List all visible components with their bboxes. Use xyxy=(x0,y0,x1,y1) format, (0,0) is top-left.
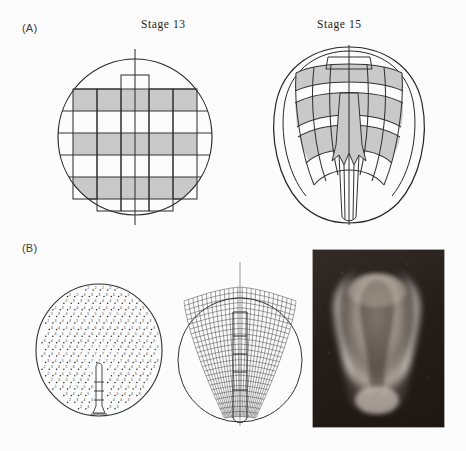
svg-text:4: 4 xyxy=(135,319,137,323)
svg-text:5: 5 xyxy=(117,392,119,396)
svg-text:3: 3 xyxy=(84,293,86,297)
svg-text:7: 7 xyxy=(91,345,93,349)
svg-text:4: 4 xyxy=(120,306,122,310)
svg-text:6: 6 xyxy=(120,332,122,336)
svg-text:2: 2 xyxy=(69,293,71,297)
svg-text:5: 5 xyxy=(84,319,86,323)
svg-text:5: 5 xyxy=(73,378,75,382)
svg-text:4: 4 xyxy=(142,332,144,336)
svg-text:5: 5 xyxy=(62,372,64,376)
svg-text:7: 7 xyxy=(98,359,100,363)
svg-text:4: 4 xyxy=(54,359,56,363)
svg-text:7: 7 xyxy=(117,365,119,369)
svg-text:3: 3 xyxy=(87,405,89,409)
svg-text:4: 4 xyxy=(113,398,115,402)
svg-text:6: 6 xyxy=(80,365,82,369)
svg-text:7: 7 xyxy=(91,372,93,376)
svg-text:6: 6 xyxy=(117,339,119,343)
svg-text:4: 4 xyxy=(102,299,104,303)
svg-text:6: 6 xyxy=(127,359,129,363)
svg-text:3: 3 xyxy=(109,405,111,409)
svg-text:2: 2 xyxy=(138,299,140,303)
svg-text:5: 5 xyxy=(127,385,129,389)
svg-text:5: 5 xyxy=(73,326,75,330)
svg-text:5: 5 xyxy=(98,319,100,323)
stage-15-title: Stage 15 xyxy=(317,18,362,30)
svg-text:5: 5 xyxy=(127,332,129,336)
svg-text:6: 6 xyxy=(131,365,133,369)
svg-text:7: 7 xyxy=(109,352,111,356)
svg-text:6: 6 xyxy=(98,332,100,336)
svg-text:3: 3 xyxy=(142,385,144,389)
svg-text:5: 5 xyxy=(131,378,133,382)
svg-text:5: 5 xyxy=(113,319,115,323)
svg-text:7: 7 xyxy=(113,345,115,349)
svg-text:6: 6 xyxy=(131,352,133,356)
svg-text:6: 6 xyxy=(73,339,75,343)
svg-text:4: 4 xyxy=(131,312,133,316)
svg-text:3: 3 xyxy=(47,359,49,363)
svg-text:7: 7 xyxy=(80,352,82,356)
svg-text:2: 2 xyxy=(157,332,159,336)
svg-text:7: 7 xyxy=(117,352,119,356)
svg-text:4: 4 xyxy=(138,326,140,330)
svg-text:7: 7 xyxy=(95,352,97,356)
svg-text:4: 4 xyxy=(80,312,82,316)
svg-text:4: 4 xyxy=(91,306,93,310)
svg-text:4: 4 xyxy=(69,319,71,323)
svg-text:4: 4 xyxy=(135,385,137,389)
svg-text:2: 2 xyxy=(54,306,56,310)
svg-text:6: 6 xyxy=(127,372,129,376)
svg-text:5: 5 xyxy=(62,345,64,349)
svg-text:6: 6 xyxy=(80,378,82,382)
svg-text:3: 3 xyxy=(62,306,64,310)
svg-text:4: 4 xyxy=(120,398,122,402)
svg-text:6: 6 xyxy=(109,326,111,330)
svg-text:3: 3 xyxy=(153,352,155,356)
svg-text:7: 7 xyxy=(84,359,86,363)
svg-text:5: 5 xyxy=(135,359,137,363)
svg-text:7: 7 xyxy=(113,359,115,363)
svg-text:4: 4 xyxy=(98,306,100,310)
svg-text:4: 4 xyxy=(138,378,140,382)
svg-text:4: 4 xyxy=(113,306,115,310)
svg-text:6: 6 xyxy=(117,326,119,330)
svg-text:6: 6 xyxy=(131,339,133,343)
svg-text:3: 3 xyxy=(142,319,144,323)
svg-text:6: 6 xyxy=(102,326,104,330)
svg-text:5: 5 xyxy=(138,365,140,369)
svg-text:5: 5 xyxy=(138,352,140,356)
figure-root: (A) Stage 13 Stage 15 xyxy=(0,0,466,451)
svg-text:4: 4 xyxy=(73,392,75,396)
svg-text:5: 5 xyxy=(91,319,93,323)
svg-text:2: 2 xyxy=(117,286,119,290)
svg-text:6: 6 xyxy=(76,359,78,363)
svg-text:7: 7 xyxy=(113,372,115,376)
svg-text:5: 5 xyxy=(109,312,111,316)
svg-text:5: 5 xyxy=(131,326,133,330)
svg-text:3: 3 xyxy=(76,398,78,402)
svg-text:3: 3 xyxy=(47,345,49,349)
svg-text:3: 3 xyxy=(131,299,133,303)
svg-text:5: 5 xyxy=(120,319,122,323)
svg-text:7: 7 xyxy=(84,345,86,349)
numbered-map-outline xyxy=(36,284,162,416)
svg-text:5: 5 xyxy=(58,352,60,356)
svg-text:3: 3 xyxy=(98,293,100,297)
svg-text:6: 6 xyxy=(87,339,89,343)
svg-text:4: 4 xyxy=(95,299,97,303)
svg-text:5: 5 xyxy=(138,339,140,343)
svg-text:6: 6 xyxy=(124,378,126,382)
panel-a-letter: (A) xyxy=(22,22,37,34)
svg-text:4: 4 xyxy=(73,312,75,316)
svg-text:4: 4 xyxy=(146,326,148,330)
svg-text:5: 5 xyxy=(142,345,144,349)
svg-text:3: 3 xyxy=(149,332,151,336)
svg-text:4: 4 xyxy=(149,345,151,349)
svg-text:3: 3 xyxy=(73,299,75,303)
svg-text:5: 5 xyxy=(69,332,71,336)
svg-text:7: 7 xyxy=(102,339,104,343)
svg-text:3: 3 xyxy=(142,306,144,310)
svg-text:6: 6 xyxy=(76,332,78,336)
svg-text:2: 2 xyxy=(69,398,71,402)
